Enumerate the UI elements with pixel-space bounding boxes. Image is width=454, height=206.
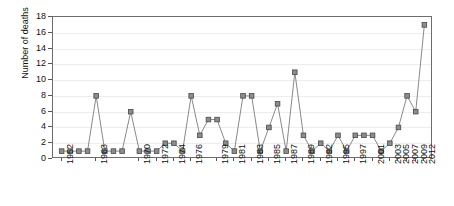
- x-tick-mark: [233, 158, 234, 161]
- y-tick-label: 4: [26, 121, 46, 131]
- data-point-marker: [413, 109, 418, 114]
- x-tick-label: 1952: [65, 144, 75, 164]
- x-tick-label: 1997: [358, 144, 368, 164]
- x-tick-label: 1972: [160, 144, 170, 164]
- x-tick-label: 1985: [272, 144, 282, 164]
- data-point-marker: [422, 23, 427, 28]
- data-point-marker: [215, 117, 220, 122]
- data-point-marker: [59, 149, 64, 154]
- x-tick-label: 2001: [376, 144, 386, 164]
- x-tick-mark: [320, 158, 321, 161]
- y-tick-label: 8: [26, 90, 46, 100]
- data-point-marker: [111, 149, 116, 154]
- x-tick-mark: [190, 158, 191, 161]
- series-line-deaths: [53, 17, 433, 159]
- x-tick-mark: [156, 158, 157, 161]
- y-tick-label: 0: [26, 153, 46, 163]
- x-tick-label: 1963: [99, 144, 109, 164]
- data-point-marker: [293, 70, 298, 75]
- y-tick-label: 16: [26, 27, 46, 37]
- data-point-marker: [198, 133, 203, 138]
- x-tick-mark: [251, 158, 252, 161]
- data-point-marker: [301, 133, 306, 138]
- data-point-marker: [353, 133, 358, 138]
- y-tick-label: 6: [26, 106, 46, 116]
- x-tick-mark: [61, 158, 62, 161]
- x-tick-label: 1989: [306, 144, 316, 164]
- x-tick-label: 1974: [177, 144, 187, 164]
- chart-container: Number of deaths 024681012141618 1952196…: [0, 0, 454, 206]
- x-tick-mark: [337, 158, 338, 161]
- data-point-marker: [85, 149, 90, 154]
- data-point-marker: [284, 149, 289, 154]
- x-tick-label: 1983: [255, 144, 265, 164]
- data-point-marker: [267, 125, 272, 130]
- series-path: [62, 25, 425, 151]
- x-tick-mark: [354, 158, 355, 161]
- data-point-marker: [154, 149, 159, 154]
- x-tick-mark: [372, 158, 373, 161]
- data-point-marker: [137, 149, 142, 154]
- x-tick-mark: [415, 158, 416, 161]
- data-point-marker: [396, 125, 401, 130]
- data-point-marker: [77, 149, 82, 154]
- data-point-marker: [370, 133, 375, 138]
- x-tick-mark: [302, 158, 303, 161]
- x-tick-label: 1970: [142, 144, 152, 164]
- data-point-marker: [232, 149, 237, 154]
- data-point-marker: [362, 133, 367, 138]
- y-tick-label: 12: [26, 58, 46, 68]
- x-tick-label: 1995: [341, 144, 351, 164]
- x-tick-mark: [397, 158, 398, 161]
- x-tick-mark: [216, 158, 217, 161]
- x-tick-mark: [285, 158, 286, 161]
- x-tick-mark: [138, 158, 139, 161]
- x-tick-label: 1992: [324, 144, 334, 164]
- data-point-marker: [388, 141, 393, 146]
- data-point-marker: [120, 149, 125, 154]
- x-tick-mark: [423, 158, 424, 161]
- data-point-marker: [318, 141, 323, 146]
- y-tick-label: 2: [26, 137, 46, 147]
- x-tick-label: 1987: [289, 144, 299, 164]
- data-point-marker: [94, 94, 99, 99]
- data-point-marker: [241, 94, 246, 99]
- data-point-marker: [405, 94, 410, 99]
- data-point-marker: [249, 94, 254, 99]
- x-tick-label: 1981: [237, 144, 247, 164]
- x-tick-mark: [406, 158, 407, 161]
- y-tick-label: 14: [26, 43, 46, 53]
- x-tick-mark: [389, 158, 390, 161]
- y-tick-label: 18: [26, 11, 46, 21]
- x-tick-label: 1979: [220, 144, 230, 164]
- data-point-marker: [128, 109, 133, 114]
- x-tick-label: 2012: [427, 144, 437, 164]
- data-point-marker: [189, 94, 194, 99]
- data-point-marker: [275, 101, 280, 106]
- x-tick-mark: [268, 158, 269, 161]
- plot-area: [52, 16, 432, 158]
- y-tick-mark: [48, 158, 52, 159]
- data-point-marker: [172, 141, 177, 146]
- y-tick-label: 10: [26, 74, 46, 84]
- x-tick-label: 1976: [194, 144, 204, 164]
- data-point-marker: [336, 133, 341, 138]
- x-tick-mark: [173, 158, 174, 161]
- data-point-marker: [206, 117, 211, 122]
- x-tick-mark: [95, 158, 96, 161]
